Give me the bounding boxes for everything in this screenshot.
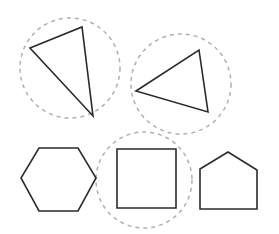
shape-pentagon-lower-right — [200, 152, 257, 209]
shape-triangle-upper-left — [30, 27, 93, 116]
grouping-circle-triangle-upper-left — [20, 18, 120, 118]
shape-hexagon-lower-left — [21, 148, 96, 211]
shape-triangle-upper-right — [136, 50, 208, 112]
figure-canvas: Geometric shapes with dashed grouping ci… — [0, 0, 279, 234]
shapes-diagram-svg: Geometric shapes with dashed grouping ci… — [0, 0, 279, 234]
shape-square-lower-middle — [117, 149, 176, 208]
grouping-circle-square-lower-middle — [96, 132, 192, 228]
